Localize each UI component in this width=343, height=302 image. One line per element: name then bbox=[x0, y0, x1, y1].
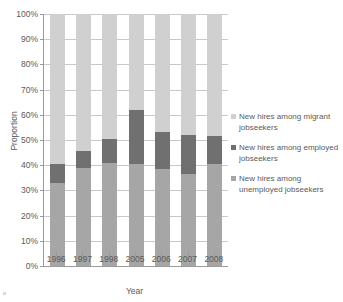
bar-stack[interactable] bbox=[76, 14, 91, 266]
bar-stack[interactable] bbox=[129, 14, 144, 266]
bar-segment[interactable] bbox=[129, 14, 144, 110]
chart-container: Proportion 0%10%20%30%40%50%60%70%80%90%… bbox=[0, 0, 343, 302]
legend-item-label: New hires among employed jobseekers bbox=[239, 142, 343, 164]
corner-artifact bbox=[3, 292, 6, 295]
y-axis-tick-label: 30% bbox=[21, 185, 38, 195]
x-axis-tick-label: 2008 bbox=[204, 254, 223, 264]
bar-stack[interactable] bbox=[155, 14, 170, 266]
legend-item-label: New hires among migrant jobseekers bbox=[239, 111, 343, 133]
legend-swatch-icon bbox=[231, 145, 236, 150]
bar-segment[interactable] bbox=[155, 14, 170, 132]
bar-stack[interactable] bbox=[207, 14, 222, 266]
x-axis-title: Year bbox=[42, 286, 227, 296]
legend-item-label: New hires among unemployed jobseekers bbox=[239, 173, 343, 195]
bar-segment[interactable] bbox=[76, 14, 91, 151]
y-axis-tick-label: 0% bbox=[26, 261, 38, 271]
bar-segment[interactable] bbox=[102, 139, 117, 163]
chart-legend: New hires among migrant jobseekersNew hi… bbox=[231, 111, 343, 204]
plot-area: 0%10%20%30%40%50%60%70%80%90%100% bbox=[43, 14, 228, 267]
y-axis-tick-mark bbox=[40, 266, 44, 267]
y-axis-tick-label: 80% bbox=[21, 59, 38, 69]
bar-segment[interactable] bbox=[76, 168, 91, 266]
bar-segment[interactable] bbox=[155, 132, 170, 169]
y-axis-tick-label: 100% bbox=[16, 9, 38, 19]
bar-segment[interactable] bbox=[76, 151, 91, 167]
y-axis-tick-label: 70% bbox=[21, 85, 38, 95]
y-axis-tick-label: 10% bbox=[21, 236, 38, 246]
bar-segment[interactable] bbox=[50, 164, 65, 183]
bar-segment[interactable] bbox=[181, 174, 196, 266]
bar-segment[interactable] bbox=[207, 14, 222, 136]
x-axis-tick-label: 2006 bbox=[152, 254, 171, 264]
x-axis-tick-label: 1998 bbox=[99, 254, 118, 264]
bar-stack[interactable] bbox=[50, 14, 65, 266]
bar-segment[interactable] bbox=[155, 169, 170, 266]
bar-segment[interactable] bbox=[207, 136, 222, 164]
y-axis-tick-label: 50% bbox=[21, 135, 38, 145]
bar-segment[interactable] bbox=[102, 14, 117, 139]
y-axis-tick-label: 90% bbox=[21, 34, 38, 44]
x-axis-tick-label: 2005 bbox=[126, 254, 145, 264]
y-axis-title: Proportion bbox=[9, 96, 19, 166]
legend-swatch-icon bbox=[231, 176, 236, 181]
bar-segment[interactable] bbox=[102, 163, 117, 266]
y-axis-tick-label: 60% bbox=[21, 110, 38, 120]
y-axis-tick-label: 20% bbox=[21, 211, 38, 221]
bars-group bbox=[44, 14, 228, 266]
x-axis-tick-label: 1996 bbox=[47, 254, 66, 264]
legend-item[interactable]: New hires among employed jobseekers bbox=[231, 142, 343, 164]
legend-swatch-icon bbox=[231, 114, 236, 119]
bar-segment[interactable] bbox=[129, 110, 144, 164]
y-axis-tick-label: 40% bbox=[21, 160, 38, 170]
bar-segment[interactable] bbox=[50, 14, 65, 164]
bar-stack[interactable] bbox=[102, 14, 117, 266]
cropped-title-strip bbox=[0, 0, 343, 9]
x-axis-tick-label: 1997 bbox=[73, 254, 92, 264]
bar-stack[interactable] bbox=[181, 14, 196, 266]
x-axis-tick-label: 2007 bbox=[178, 254, 197, 264]
legend-item[interactable]: New hires among migrant jobseekers bbox=[231, 111, 343, 133]
bar-segment[interactable] bbox=[129, 164, 144, 266]
legend-item[interactable]: New hires among unemployed jobseekers bbox=[231, 173, 343, 195]
bar-segment[interactable] bbox=[181, 14, 196, 135]
bar-segment[interactable] bbox=[181, 135, 196, 174]
bar-segment[interactable] bbox=[207, 164, 222, 266]
